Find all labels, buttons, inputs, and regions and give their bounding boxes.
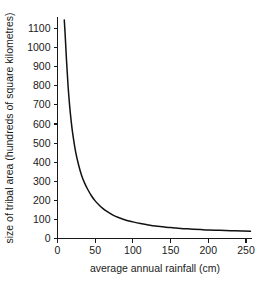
x-axis-title: average annual rainfall (cm) bbox=[90, 262, 220, 274]
y-tick-label: 400 bbox=[33, 156, 51, 168]
y-axis-title: size of tribal area (hundreds of square … bbox=[3, 12, 15, 243]
y-tick-label: 700 bbox=[33, 98, 51, 110]
y-tick-label: 600 bbox=[33, 118, 51, 130]
y-tick-label: 1100 bbox=[28, 22, 51, 34]
x-tick-label: 250 bbox=[237, 244, 255, 256]
x-tick-label: 150 bbox=[162, 244, 180, 256]
y-tick-label: 800 bbox=[33, 79, 51, 91]
y-tick-label: 900 bbox=[33, 60, 51, 72]
chart-figure: 010020030040050060070080090010001100 050… bbox=[0, 0, 262, 283]
chart-container: 010020030040050060070080090010001100 050… bbox=[0, 0, 262, 283]
x-tick-label: 50 bbox=[89, 244, 101, 256]
y-tick-label: 500 bbox=[33, 137, 51, 149]
y-tick-label: 1000 bbox=[27, 41, 51, 53]
y-tick-label: 300 bbox=[33, 175, 51, 187]
x-tick-label: 200 bbox=[200, 244, 218, 256]
x-tick-label: 100 bbox=[124, 244, 142, 256]
y-tick-label: 100 bbox=[33, 213, 51, 225]
y-tick-label: 0 bbox=[45, 232, 51, 244]
y-tick-label: 200 bbox=[33, 194, 51, 206]
x-tick-label: 0 bbox=[55, 244, 61, 256]
